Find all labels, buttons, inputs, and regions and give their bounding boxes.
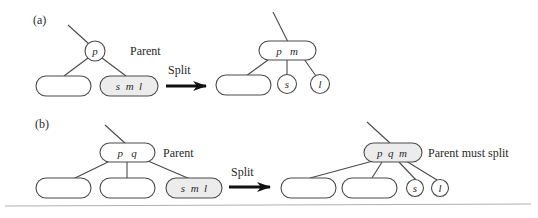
edge-left — [73, 162, 108, 179]
root-edge — [273, 12, 288, 42]
parent-node-keys: p m — [275, 45, 298, 57]
root-edge — [68, 25, 89, 44]
edge-left — [246, 60, 268, 76]
panel-b-after-tree: p q m Parent must split s l — [281, 122, 509, 198]
leaf-s-key: s — [285, 78, 289, 90]
left-leaf — [36, 76, 91, 96]
overfull-leaf-keys: s m l — [181, 182, 207, 194]
leaf-s-key: s — [413, 182, 417, 194]
leaf-l-key: l — [318, 78, 321, 90]
split-label: Split — [231, 165, 254, 179]
panel-a-before-tree: p Parent s m l — [36, 25, 161, 96]
root-edge — [105, 125, 126, 144]
root-edge — [367, 122, 390, 143]
parent-node-keys: p — [91, 45, 98, 57]
leaf-2 — [342, 178, 397, 198]
leaf-l-key: l — [438, 182, 441, 194]
left-leaf — [36, 178, 91, 198]
panel-a: (a) p Parent s m l Split p m — [33, 12, 330, 96]
parent-must-split-label: Parent must split — [428, 146, 509, 160]
parent-label: Parent — [130, 44, 161, 58]
edge-right — [102, 58, 126, 76]
edge-left — [64, 58, 88, 76]
edge-right — [304, 59, 316, 76]
parent-node-keys: p q m — [376, 147, 407, 159]
left-leaf — [216, 75, 271, 95]
edge-4 — [406, 161, 437, 180]
overfull-leaf-keys: s m l — [116, 80, 142, 92]
split-label: Split — [168, 63, 191, 77]
edge-right — [148, 161, 190, 179]
panel-b: (b) p q Parent s m l Split p — [35, 117, 509, 198]
edge-2 — [372, 162, 382, 178]
middle-leaf — [100, 178, 155, 198]
bottom-rule — [5, 204, 531, 206]
panel-b-label: (b) — [35, 117, 49, 131]
panel-b-before-tree: p q Parent s m l — [36, 125, 222, 198]
panel-a-after-tree: p m s l — [216, 12, 330, 95]
edge-3 — [399, 162, 416, 180]
edge-1 — [310, 161, 373, 178]
panel-a-label: (a) — [33, 13, 46, 27]
two-three-tree-split-diagram: (a) p Parent s m l Split p m — [0, 0, 538, 218]
parent-node-keys: p q — [116, 147, 137, 159]
leaf-1 — [281, 178, 336, 198]
parent-label: Parent — [163, 146, 194, 160]
